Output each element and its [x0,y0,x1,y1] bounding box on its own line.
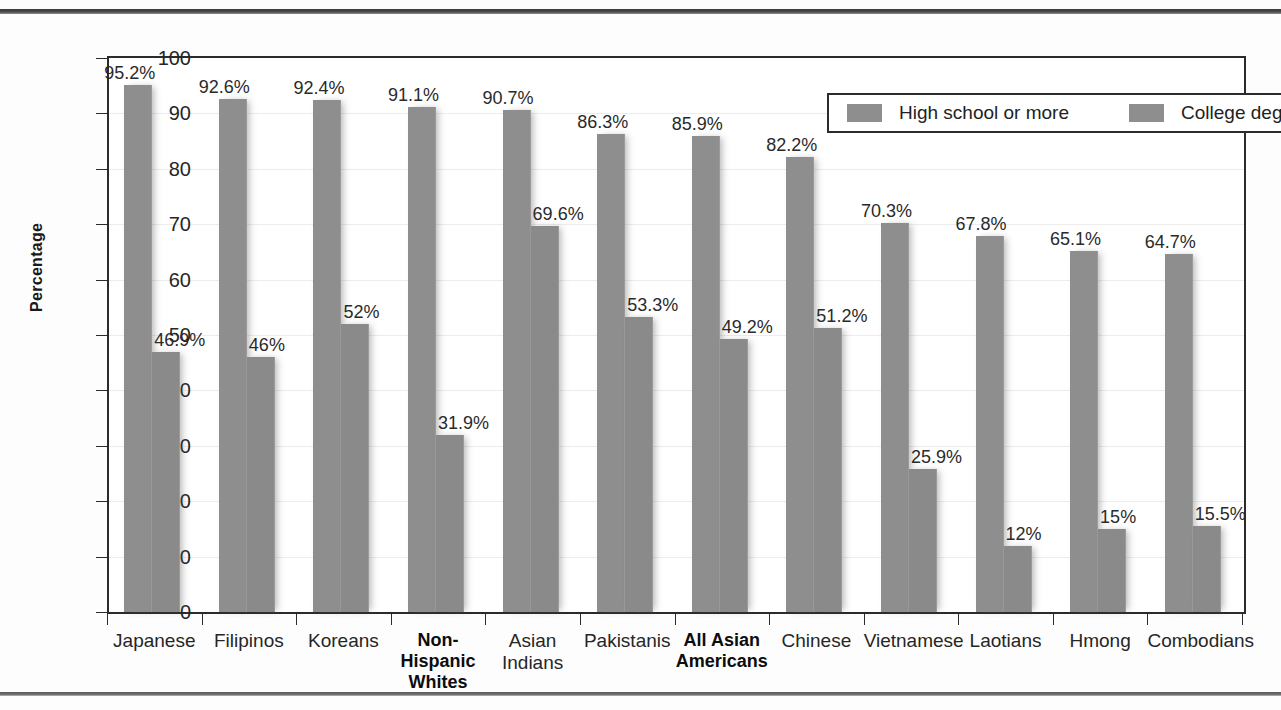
bar-value-label: 49.2% [722,318,773,336]
bar-group: 92.4%52% [298,58,393,612]
bar-value-label: 92.4% [293,79,344,97]
page-root: Percentage 0102030405060708090100 95.2%4… [0,0,1281,710]
bar: 51.2% [814,328,842,612]
bar: 15% [1098,529,1126,612]
x-axis-tick [1147,614,1148,625]
legend-swatch-icon [847,104,882,122]
x-axis-category-label: Koreans [296,630,391,652]
bar: 53.3% [625,317,653,612]
bar-value-label: 25.9% [911,448,962,466]
bar: 86.3% [597,134,625,612]
bar-value-label: 90.7% [483,89,534,107]
bar-group: 92.6%46% [204,58,299,612]
bar-value-label: 69.6% [533,205,584,223]
x-axis-category-label: Asian Indians [485,630,580,674]
y-axis-tick [96,612,108,613]
legend-entry-college-degree: College degree or more [1129,95,1281,131]
x-axis-tick [1053,614,1054,625]
y-axis-tick [96,113,108,114]
x-axis-tick [107,614,108,625]
bar-group: 65.1%15% [1055,58,1150,612]
y-axis-tick [96,501,108,502]
x-axis-tick [580,614,581,625]
legend-label: College degree or more [1181,102,1281,124]
y-axis-tick [96,280,108,281]
bar: 70.3% [881,223,909,612]
bar-group: 70.3%25.9% [866,58,961,612]
x-axis-tick [391,614,392,625]
bar-value-label: 52% [343,303,379,321]
bar-value-label: 31.9% [438,414,489,432]
bar-group: 90.7%69.6% [487,58,582,612]
x-axis-category-label: Filipinos [202,630,297,652]
bar: 49.2% [720,339,748,612]
bar-group: 95.2%46.9% [109,58,204,612]
plot-area: 0102030405060708090100 95.2%46.9%92.6%46… [107,56,1246,614]
x-axis-category-label: Japanese [107,630,202,652]
x-axis-category-label: Hmong [1053,630,1148,652]
x-axis-tick [202,614,203,625]
x-axis-tick [1242,614,1243,625]
bar-value-label: 12% [1006,525,1042,543]
bar-group: 82.2%51.2% [771,58,866,612]
bar-value-label: 15.5% [1195,505,1246,523]
legend-label: High school or more [899,102,1069,124]
bar-value-label: 53.3% [627,296,678,314]
bar: 52% [341,324,369,612]
bar-group: 67.8%12% [960,58,1055,612]
bar: 95.2% [124,85,152,612]
bar-value-label: 15% [1100,508,1136,526]
x-axis-category-label: Laotians [958,630,1053,652]
bar-value-label: 46% [249,336,285,354]
bar-value-label: 65.1% [1050,230,1101,248]
chart-legend: High school or more College degree or mo… [827,93,1281,133]
bar: 92.6% [219,99,247,612]
bar-value-label: 64.7% [1145,233,1196,251]
bar: 82.2% [786,157,814,612]
y-axis-tick [96,390,108,391]
bar: 90.7% [503,110,531,612]
x-axis-tick [675,614,676,625]
bar-value-label: 86.3% [577,113,628,131]
page-bottom-rule [0,692,1281,696]
bar-value-label: 67.8% [955,215,1006,233]
bar: 31.9% [436,435,464,612]
bar-value-label: 70.3% [861,202,912,220]
bar: 85.9% [692,136,720,612]
bar-group: 64.7%15.5% [1149,58,1244,612]
page-top-rule [0,9,1281,14]
bar-value-label: 46.9% [154,331,205,349]
x-axis-tick [485,614,486,625]
y-axis-tick [96,224,108,225]
x-axis-category-label: Non- Hispanic Whites [391,630,486,693]
bar-group: 85.9%49.2% [677,58,772,612]
x-axis-tick [958,614,959,625]
bar-value-label: 51.2% [816,307,867,325]
bar: 92.4% [313,100,341,612]
bar-value-label: 85.9% [672,115,723,133]
bar: 65.1% [1070,251,1098,612]
x-axis-tick [864,614,865,625]
legend-entry-high-school: High school or more [847,95,1069,131]
bar: 91.1% [408,107,436,612]
x-axis-category-label: Combodians [1147,630,1242,652]
bar-group: 91.1%31.9% [393,58,488,612]
x-axis: JapaneseFilipinosKoreansNon- Hispanic Wh… [107,614,1248,684]
y-axis-title: Percentage [28,223,46,312]
bar: 25.9% [909,469,937,612]
bar-value-label: 91.1% [388,86,439,104]
bar: 12% [1004,546,1032,612]
x-axis-category-label: Pakistanis [580,630,675,652]
bar-chart: Percentage 0102030405060708090100 95.2%4… [0,22,1281,682]
x-axis-tick [296,614,297,625]
bar-value-label: 95.2% [104,64,155,82]
bar: 69.6% [531,226,559,612]
x-axis-category-label: All Asian Americans [675,630,770,672]
y-axis-tick [96,169,108,170]
bar: 67.8% [976,236,1004,612]
y-axis-tick [96,335,108,336]
bar: 64.7% [1165,254,1193,612]
bar-value-label: 82.2% [766,136,817,154]
bar: 15.5% [1193,526,1221,612]
y-axis-tick [96,446,108,447]
